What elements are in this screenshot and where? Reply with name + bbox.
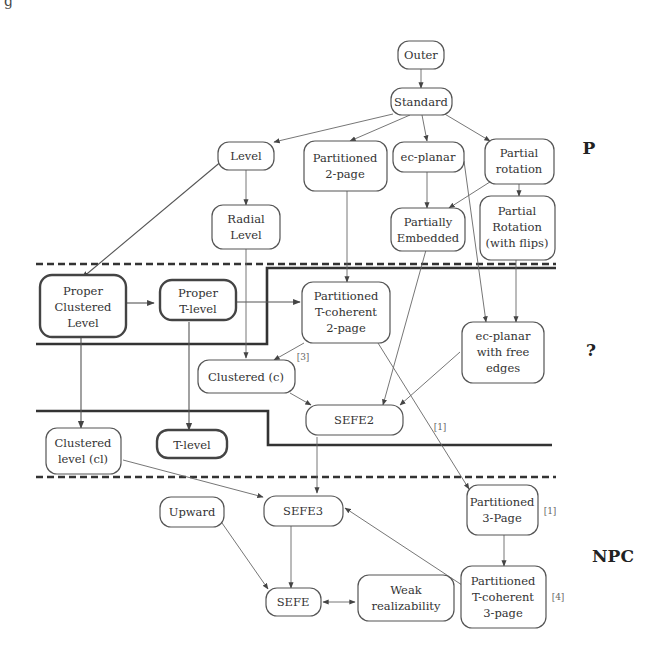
svg-text:Partitioned: Partitioned [471,574,536,588]
svg-text:2-page: 2-page [325,167,365,181]
node-partitioned-t-coherent-2page: Partitioned T-coherent 2-page [302,282,390,343]
svg-text:Level: Level [67,316,99,330]
class-label-npc: NPC [592,546,634,566]
svg-text:Level: Level [230,228,262,242]
svg-text:3-Page: 3-Page [482,511,522,525]
svg-text:T-coherent: T-coherent [315,305,377,319]
node-partial-rotation: Partial rotation [485,139,554,184]
svg-text:Proper: Proper [63,284,103,298]
edge-freeedges-sefe2 [400,352,460,405]
svg-text:Standard: Standard [394,95,448,109]
svg-text:edges: edges [486,361,520,375]
node-proper-clustered-level: Proper Clustered Level [40,275,126,337]
svg-text:Weak: Weak [390,583,423,597]
corner-fragment-text: g [4,0,13,9]
svg-text:ec-planar: ec-planar [401,150,456,164]
node-partitioned-t-coherent-3page: Partitioned T-coherent 3-page [461,566,546,628]
reference-1-node: [1] [544,506,557,516]
node-partially-embedded: Partially Embedded [391,208,465,251]
svg-text:SEFE3: SEFE3 [283,504,323,518]
svg-text:SEFE2: SEFE2 [334,413,374,427]
svg-text:realizability: realizability [372,599,441,613]
node-clustered-level-cl: Clustered level (cl) [46,428,121,474]
edge-standard-partitioned2page [350,115,410,141]
node-weak-realizability: Weak realizability [358,575,454,621]
node-partitioned-3page: Partitioned 3-Page [467,485,538,535]
svg-text:SEFE: SEFE [277,595,310,609]
svg-text:level (cl): level (cl) [58,452,108,466]
node-partial-rotation-flips: Partial Rotation (with flips) [480,196,555,260]
class-label-p: P [583,138,596,158]
svg-text:Clustered: Clustered [55,300,113,314]
node-sefe3: SEFE3 [264,496,343,526]
reference-3: [3] [297,352,310,362]
node-standard: Standard [391,88,452,115]
svg-text:Partially: Partially [404,215,453,229]
svg-text:2-page: 2-page [326,321,366,335]
node-upward: Upward [160,497,224,527]
edge-standard-ecplanar [422,115,427,141]
svg-text:Partitioned: Partitioned [470,495,535,509]
complexity-diagram: g P ? NPC [0,0,647,653]
node-clustered-c: Clustered (c) [198,360,295,393]
svg-text:Radial: Radial [227,212,265,226]
node-sefe2: SEFE2 [306,405,403,435]
node-ec-planar: ec-planar [393,142,464,172]
svg-text:Outer: Outer [404,48,438,62]
svg-text:Partial: Partial [498,204,537,218]
edge-standard-partialrotation [443,113,490,141]
svg-text:rotation: rotation [496,162,543,176]
reference-4: [4] [552,592,565,602]
svg-text:Upward: Upward [169,505,216,519]
svg-text:Rotation: Rotation [492,220,542,234]
reference-1-edge: [1] [434,422,447,432]
node-partitioned-2page: Partitioned 2-page [304,141,387,191]
svg-text:Clustered: Clustered [55,436,113,450]
node-t-level: T-level [157,430,227,458]
svg-text:T-level: T-level [173,438,211,452]
svg-text:Proper: Proper [178,286,218,300]
node-level: Level [218,142,274,170]
node-outer: Outer [398,41,444,69]
svg-text:Partitioned: Partitioned [313,151,378,165]
node-radial-level: Radial Level [212,205,280,249]
edge-clusteredc-sefe2 [290,393,311,405]
edge-upward-sefe [222,523,268,589]
edge-level-properclusteredlevel [82,160,223,278]
svg-text:Clustered (c): Clustered (c) [208,370,284,384]
svg-text:Partial: Partial [500,146,539,160]
node-proper-t-level: Proper T-level [160,280,236,320]
svg-text:T-level: T-level [179,302,217,316]
svg-text:Partitioned: Partitioned [314,289,379,303]
class-label-unknown: ? [586,340,596,360]
svg-text:with free: with free [477,345,530,359]
svg-text:3-page: 3-page [483,606,523,620]
edge-clusteredlevel-sefe3 [123,460,263,497]
svg-text:Embedded: Embedded [397,231,460,245]
edge-standard-level [274,114,393,142]
svg-text:T-coherent: T-coherent [472,590,534,604]
node-sefe: SEFE [266,588,321,616]
node-ec-planar-free-edges: ec-planar with free edges [462,322,544,383]
svg-text:Level: Level [230,149,262,163]
svg-text:ec-planar: ec-planar [476,329,531,343]
svg-text:(with flips): (with flips) [486,236,549,250]
